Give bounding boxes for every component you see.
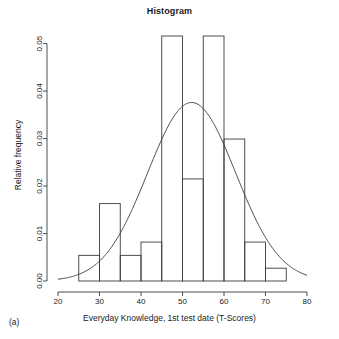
histogram-bar: [245, 242, 266, 281]
x-tick-label: 80: [303, 297, 312, 306]
y-tick-label: 0.00: [35, 273, 44, 289]
histogram-bar: [183, 179, 204, 281]
x-tick-label: 70: [261, 297, 270, 306]
histogram-bar: [266, 268, 287, 281]
histogram-bar: [120, 255, 141, 281]
histogram-figure: Histogram 0.000.010.020.030.040.05203040…: [0, 0, 339, 339]
x-tick-label: 40: [137, 297, 146, 306]
histogram-bar: [141, 242, 162, 281]
y-tick-label: 0.05: [35, 35, 44, 51]
histogram-bar: [79, 255, 100, 281]
histogram-bar: [224, 139, 245, 281]
x-axis-label: Everyday Knowledge, 1st test date (T-Sco…: [0, 313, 339, 323]
y-tick-label: 0.03: [35, 130, 44, 146]
x-tick-label: 60: [220, 297, 229, 306]
histogram-bar: [203, 36, 224, 281]
y-tick-label: 0.04: [35, 83, 44, 99]
y-axis-label: Relative frequency: [13, 85, 23, 225]
plot-canvas: 0.000.010.020.030.040.0520304050607080: [0, 0, 339, 339]
histogram-bar: [162, 36, 183, 281]
x-tick-label: 20: [54, 297, 63, 306]
panel-tag: (a): [9, 317, 19, 327]
y-tick-label: 0.01: [35, 225, 44, 241]
y-tick-label: 0.02: [35, 178, 44, 194]
x-tick-label: 50: [178, 297, 187, 306]
histogram-bar: [100, 204, 121, 281]
x-tick-label: 30: [95, 297, 104, 306]
